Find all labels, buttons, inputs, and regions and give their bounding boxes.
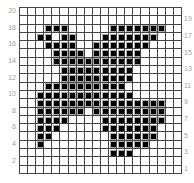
stitch-cell: [165, 131, 173, 139]
stitch-cell: [84, 131, 92, 139]
stitch-cell: [59, 7, 67, 15]
stitch-cell: [76, 148, 84, 156]
stitch-cell-filled: [132, 24, 140, 32]
stitch-cell: [157, 57, 165, 65]
stitch-cell: [132, 65, 140, 73]
stitch-cell: [165, 140, 173, 148]
stitch-cell: [35, 82, 43, 90]
stitch-cell: [59, 148, 67, 156]
stitch-cell: [140, 165, 148, 173]
stitch-cell: [140, 48, 148, 56]
stitch-cell-filled: [68, 107, 76, 115]
stitch-cell: [84, 40, 92, 48]
stitch-cell-filled: [124, 115, 132, 123]
stitch-cell: [27, 82, 35, 90]
stitch-cell: [157, 123, 165, 131]
stitch-cell: [124, 15, 132, 23]
stitch-cell: [100, 165, 108, 173]
stitch-cell-filled: [140, 107, 148, 115]
stitch-cell: [59, 165, 67, 173]
stitch-cell: [92, 131, 100, 139]
stitch-cell-filled: [124, 24, 132, 32]
stitch-cell: [100, 131, 108, 139]
stitch-cell: [173, 57, 181, 65]
stitch-cell: [108, 15, 116, 23]
stitch-cell: [35, 156, 43, 164]
stitch-cell: [116, 156, 124, 164]
row-label-6: 6: [2, 123, 16, 131]
stitch-cell: [173, 140, 181, 148]
row-label-16: 16: [2, 40, 16, 48]
stitch-cell: [173, 123, 181, 131]
stitch-cell: [165, 90, 173, 98]
stitch-cell-filled: [140, 32, 148, 40]
stitch-cell: [35, 7, 43, 15]
stitch-cell: [27, 65, 35, 73]
stitch-cell-filled: [59, 115, 67, 123]
stitch-cell-filled: [76, 48, 84, 56]
stitch-cell-filled: [51, 24, 59, 32]
stitch-cell-filled: [76, 98, 84, 106]
stitch-cell: [35, 65, 43, 73]
row-label-3: 3: [184, 148, 194, 156]
stitch-cell-filled: [43, 115, 51, 123]
stitch-cell-filled: [59, 82, 67, 90]
stitch-cell-filled: [132, 57, 140, 65]
stitch-cell: [51, 140, 59, 148]
stitch-cell: [19, 123, 27, 131]
stitch-cell-filled: [84, 73, 92, 81]
stitch-cell-filled: [43, 98, 51, 106]
stitch-cell: [100, 156, 108, 164]
stitch-cell-filled: [51, 82, 59, 90]
stitch-cell: [84, 156, 92, 164]
stitch-cell: [149, 165, 157, 173]
stitch-cell: [173, 32, 181, 40]
stitch-cell: [149, 15, 157, 23]
stitch-cell-filled: [108, 148, 116, 156]
stitch-cell-filled: [116, 90, 124, 98]
stitch-cell-filled: [100, 48, 108, 56]
stitch-cell: [92, 165, 100, 173]
stitch-cell-filled: [84, 98, 92, 106]
stitch-cell-filled: [124, 148, 132, 156]
stitch-cell-filled: [35, 140, 43, 148]
stitch-cell-filled: [59, 57, 67, 65]
stitch-cell-filled: [59, 90, 67, 98]
stitch-cell-filled: [140, 131, 148, 139]
stitch-cell-filled: [124, 40, 132, 48]
stitch-cell-filled: [140, 140, 148, 148]
stitch-cell: [76, 7, 84, 15]
stitch-cell-filled: [132, 123, 140, 131]
stitch-cell: [132, 7, 140, 15]
stitch-cell-filled: [100, 90, 108, 98]
stitch-cell: [165, 156, 173, 164]
stitch-cell: [68, 165, 76, 173]
stitch-cell-filled: [59, 32, 67, 40]
stitch-cell-filled: [149, 32, 157, 40]
stitch-cell-filled: [108, 107, 116, 115]
stitch-cell: [173, 131, 181, 139]
stitch-cell: [140, 148, 148, 156]
stitch-cell-filled: [149, 131, 157, 139]
stitch-cell: [68, 123, 76, 131]
stitch-cell: [27, 115, 35, 123]
stitch-cell: [68, 148, 76, 156]
stitch-cell: [165, 48, 173, 56]
stitch-cell: [116, 165, 124, 173]
stitch-cell: [84, 148, 92, 156]
stitch-cell-filled: [100, 98, 108, 106]
stitch-cell-filled: [100, 115, 108, 123]
stitch-cell: [27, 32, 35, 40]
stitch-cell-filled: [92, 48, 100, 56]
stitch-cell: [100, 24, 108, 32]
stitch-cell-filled: [157, 24, 165, 32]
stitch-cell-filled: [100, 57, 108, 65]
stitch-cell-filled: [92, 98, 100, 106]
stitch-cell: [165, 148, 173, 156]
stitch-cell-filled: [43, 32, 51, 40]
stitch-cell-filled: [43, 131, 51, 139]
stitch-cell-filled: [68, 48, 76, 56]
stitch-cell: [59, 140, 67, 148]
stitch-cell: [100, 140, 108, 148]
stitch-cell-filled: [132, 32, 140, 40]
